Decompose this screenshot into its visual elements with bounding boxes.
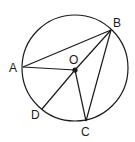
segment-oc: [75, 70, 86, 121]
center-point-o: [72, 67, 77, 72]
label-b: B: [113, 16, 121, 30]
label-c: C: [81, 125, 90, 139]
label-o: O: [69, 53, 78, 67]
circle-geometry-diagram: A B C D O: [0, 0, 135, 142]
label-d: D: [31, 108, 40, 122]
segment-ab: [23, 30, 111, 67]
segment-ao: [23, 67, 75, 70]
diagram-canvas: A B C D O: [0, 0, 135, 142]
segment-od: [42, 70, 75, 109]
label-a: A: [9, 61, 17, 75]
